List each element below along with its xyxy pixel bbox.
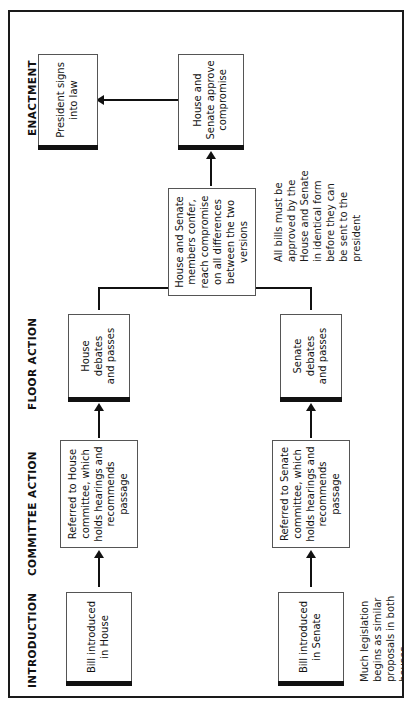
connector-conference-to-approve [210,158,212,186]
node-bill-introduced-in-senate[interactable]: Bill introduced in Senate [278,592,344,682]
connector-senate-floor-to-conference-h [310,288,312,310]
flowchart-canvas: INTRODUCTION COMMITTEE ACTION FLOOR ACTI… [10,12,402,696]
note-identical-form-requirement: All bills must be approved by the House … [272,132,363,262]
page-background: INTRODUCTION COMMITTEE ACTION FLOOR ACTI… [0,0,414,708]
connector-bill-senate-to-senate-committee [310,557,312,587]
rotated-diagram-wrapper: INTRODUCTION COMMITTEE ACTION FLOOR ACTI… [10,12,402,696]
arrowhead-to-house-floor [94,403,104,411]
node-house-debates-and-passes[interactable]: House debates and passes [68,314,130,398]
connector-senate-committee-to-senate-floor [310,410,312,438]
node-president-signs-into-law[interactable]: President signs into law [38,54,98,146]
node-referred-to-senate-committee[interactable]: Referred to Senate committee, which hold… [272,440,350,548]
arrowhead-to-senate-floor [306,403,316,411]
section-header-introduction: INTRODUCTION [26,593,39,688]
node-referred-to-house-committee[interactable]: Referred to House committee, which holds… [60,440,138,548]
node-senate-debates-and-passes[interactable]: Senate debates and passes [280,314,342,398]
arrowhead-to-senate-committee [306,550,316,558]
arrowhead-to-approve [206,151,216,159]
note-much-legislation-both-houses: Much legislation begins as similar propo… [358,552,404,682]
figure-frame: INTRODUCTION COMMITTEE ACTION FLOOR ACTI… [8,10,404,698]
connector-house-floor-to-conference-h [98,288,100,310]
connector-approve-to-president [102,99,178,101]
section-header-floor-action: FLOOR ACTION [26,318,39,411]
node-bill-introduced-in-house[interactable]: Bill introduced in House [66,592,132,682]
connector-bill-house-to-house-committee [98,557,100,587]
connector-house-committee-to-house-floor [98,410,100,438]
node-conference-committee[interactable]: House and Senate members confer, reach c… [168,188,256,296]
arrowhead-to-house-committee [94,550,104,558]
node-house-senate-approve-compromise[interactable]: House and Senate approve compromise [178,54,244,146]
section-header-committee-action: COMMITTEE ACTION [26,451,39,576]
